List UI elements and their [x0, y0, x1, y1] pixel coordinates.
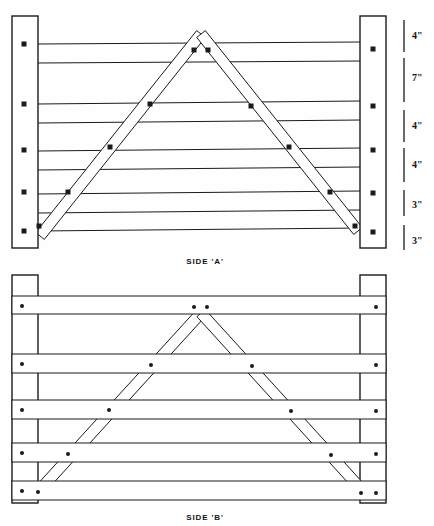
bolt-15	[108, 145, 113, 150]
side-b-rails	[12, 296, 386, 500]
bolt-20	[359, 491, 363, 495]
bolt-6	[371, 47, 376, 52]
rail-band-1	[12, 296, 386, 314]
bolt-18	[328, 190, 333, 195]
dimension-label-4: 4"	[412, 159, 423, 170]
bolt-9	[371, 191, 376, 196]
dimension-label-6: 3"	[412, 235, 423, 246]
bolt-7	[374, 363, 378, 367]
bolt-9	[374, 452, 378, 456]
bolt-8	[374, 409, 378, 413]
bolt-12	[205, 305, 209, 309]
rail-band-2	[12, 354, 386, 373]
bolt-19	[37, 224, 42, 229]
dimension-label-1: 4"	[412, 30, 423, 41]
brace-left	[36, 31, 206, 240]
bolt-5	[22, 229, 27, 234]
bolt-6	[374, 305, 378, 309]
bolt-10	[374, 491, 378, 495]
bolt-19	[36, 490, 40, 494]
side-a-view	[12, 16, 386, 248]
rail-band-3	[12, 400, 386, 419]
bolt-13	[148, 102, 153, 107]
bolt-16	[289, 409, 293, 413]
bolt-4	[22, 190, 27, 195]
bolt-1	[20, 304, 24, 308]
side-a-rails	[37, 42, 361, 231]
rail-line-9	[37, 228, 361, 231]
bolt-14	[250, 364, 254, 368]
bolt-18	[329, 453, 333, 457]
rail-line-2	[37, 61, 361, 63]
bolt-13	[149, 363, 153, 367]
bolt-17	[66, 190, 71, 195]
side-b-caption: SIDE 'B'	[165, 513, 245, 522]
bolt-8	[371, 148, 376, 153]
side-a-bolts	[22, 42, 376, 235]
bolt-5	[20, 489, 24, 493]
rail-line-4	[37, 120, 361, 123]
rail-line-3	[37, 101, 361, 104]
bolt-2	[22, 102, 27, 107]
bolt-3	[20, 408, 24, 412]
drawing-sheet: SIDE 'A' SIDE 'B' 4"7"4"4"3"3"	[0, 0, 434, 526]
bolt-20	[353, 224, 358, 229]
dimension-label-3: 4"	[412, 120, 423, 131]
bolt-14	[249, 104, 254, 109]
side-b-view	[12, 275, 386, 503]
bolt-7	[371, 104, 376, 109]
dimension-label-5: 3"	[412, 199, 423, 210]
bolt-10	[371, 230, 376, 235]
rail-line-8	[37, 210, 361, 213]
bolt-1	[22, 42, 27, 47]
rail-band-5	[12, 481, 386, 500]
bolt-3	[22, 148, 27, 153]
side-a-caption: SIDE 'A'	[165, 257, 245, 266]
bolt-11	[192, 305, 196, 309]
bolt-16	[287, 145, 292, 150]
bolt-15	[107, 408, 111, 412]
bolt-11	[192, 48, 197, 53]
dimension-label-2: 7"	[412, 72, 423, 83]
side-a-left-post	[12, 16, 38, 248]
bolt-2	[20, 362, 24, 366]
rail-line-7	[37, 191, 361, 194]
bolt-17	[66, 452, 70, 456]
bolt-4	[20, 451, 24, 455]
bolt-12	[206, 48, 211, 53]
rail-line-5	[37, 148, 361, 151]
